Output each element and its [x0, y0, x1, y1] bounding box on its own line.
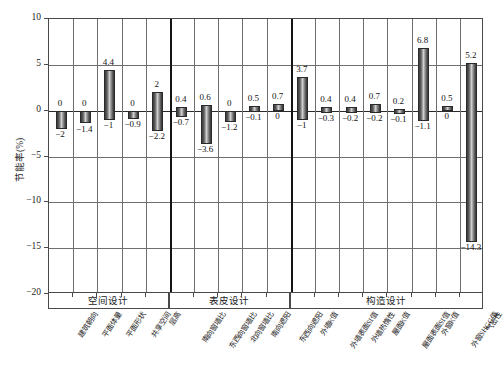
bar-top-value-14: 0.2 [381, 97, 415, 106]
x-tick-mark [459, 293, 460, 297]
gridline-x-6 [194, 19, 195, 292]
x-tick-mark [145, 293, 146, 297]
x-category-label-5: 南向窗墙比 [201, 311, 227, 344]
bar-bottom-value-4: −2.2 [140, 132, 174, 141]
y-tick-label--10: −10 [0, 196, 41, 206]
bar-bottom-value-9: 0 [261, 112, 295, 121]
bar-top-value-2: 4.4 [91, 58, 125, 67]
x-tick-mark [338, 293, 339, 297]
gridline-x-14 [387, 19, 388, 292]
bar-8 [249, 106, 260, 112]
gridline-x-15 [412, 19, 413, 292]
y-tick-label--15: −15 [0, 242, 41, 252]
bar-4 [152, 92, 163, 131]
x-tick-mark [72, 293, 73, 297]
gridline-y--15 [49, 248, 482, 249]
x-tick-mark [435, 293, 436, 297]
bar-top-value-4: 2 [140, 80, 174, 89]
bar-bottom-value-7: −1.2 [212, 123, 246, 132]
group-divider-line [170, 19, 172, 292]
y-tick-label--20: −20 [0, 288, 41, 298]
bar-top-value-15: 6.8 [406, 36, 440, 45]
bar-bottom-value-6: −3.6 [188, 145, 222, 154]
gridline-y--5 [49, 157, 482, 158]
x-category-label-2: 平面形状 [126, 311, 148, 339]
gridline-x-4 [146, 19, 147, 292]
bar-17 [466, 63, 477, 242]
gridline-x-16 [436, 19, 437, 292]
bar-top-value-3: 0 [116, 99, 150, 108]
bar-1 [80, 111, 91, 124]
group-divider-line [291, 19, 293, 292]
bar-9 [273, 104, 284, 110]
bar-15 [418, 48, 429, 120]
x-category-label-1: 平面体量 [102, 311, 124, 339]
bar-3 [128, 111, 139, 119]
bar-2 [104, 70, 115, 120]
bar-top-value-17: 5.2 [454, 51, 488, 60]
x-tick-mark [362, 293, 363, 297]
x-tick-mark [193, 293, 194, 297]
group-label-1: 表皮设计 [169, 296, 290, 306]
x-tick-mark [386, 293, 387, 297]
group-label-2: 构造设计 [290, 296, 483, 306]
y-tick-label-5: 5 [0, 59, 41, 69]
x-tick-mark [217, 293, 218, 297]
bar-top-value-10: 3.7 [285, 65, 319, 74]
bar-bottom-value-17: −14.3 [454, 243, 488, 252]
y-tick-label--5: −5 [0, 151, 41, 161]
bar-bottom-value-5: −0.7 [164, 118, 198, 127]
gridline-x-13 [363, 19, 364, 292]
gridline-x-7 [218, 19, 219, 292]
bar-top-value-9: 0.7 [261, 92, 295, 101]
x-category-label-3: 共享空间 [150, 311, 172, 339]
bar-top-value-16: 0.5 [430, 94, 464, 103]
x-tick-mark [241, 293, 242, 297]
gridline-x-9 [267, 19, 268, 292]
bar-bottom-value-3: −0.9 [116, 120, 150, 129]
gridline-x-11 [315, 19, 316, 292]
y-tick-label-0: 0 [0, 105, 41, 115]
gridline-y--10 [49, 202, 482, 203]
bar-bottom-value-16: 0 [430, 112, 464, 121]
bar-7 [225, 111, 236, 122]
y-tick-label-10: 10 [0, 13, 41, 23]
x-tick-mark [96, 293, 97, 297]
bar-13 [370, 104, 381, 112]
bar-6 [201, 105, 212, 144]
gridline-x-1 [73, 19, 74, 292]
group-label-0: 空间设计 [48, 296, 169, 306]
bar-12 [346, 107, 357, 113]
x-tick-mark [314, 293, 315, 297]
x-tick-mark [411, 293, 412, 297]
x-tick-mark [266, 293, 267, 297]
bar-bottom-value-15: −1.1 [406, 122, 440, 131]
x-tick-mark [121, 293, 122, 297]
bar-10 [297, 77, 308, 120]
bar-5 [176, 107, 187, 117]
bar-0 [56, 111, 67, 129]
bar-top-value-1: 0 [67, 99, 101, 108]
x-category-label-0: 建筑朝向 [77, 311, 99, 339]
gridline-x-12 [339, 19, 340, 292]
gridline-x-8 [242, 19, 243, 292]
